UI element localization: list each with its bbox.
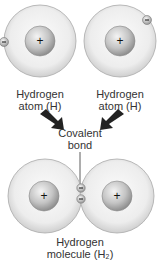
label-line: Hydrogen — [85, 88, 155, 100]
hydrogen-atom-right: + — [84, 5, 156, 77]
hydrogen-molecule: + + — [8, 159, 154, 233]
atom-right-label: Hydrogen atom (H) — [85, 88, 155, 112]
label-line: Hydrogen — [30, 236, 130, 248]
label-line: atom (H) — [5, 100, 75, 112]
label-line: molecule (H₂) — [30, 248, 130, 260]
label-line: Hydrogen — [5, 88, 75, 100]
label-line: Covalent — [45, 127, 115, 139]
bond-label: Covalent bond — [45, 127, 115, 151]
label-line: atom (H) — [85, 100, 155, 112]
svg-text:+: + — [40, 189, 47, 203]
label-line: bond — [45, 139, 115, 151]
svg-text:+: + — [116, 34, 123, 48]
atom-left-label: Hydrogen atom (H) — [5, 88, 75, 112]
hydrogen-atom-left: + — [0, 5, 76, 77]
molecule-label: Hydrogen molecule (H₂) — [30, 236, 130, 260]
svg-text:+: + — [113, 189, 120, 203]
svg-text:+: + — [36, 34, 43, 48]
